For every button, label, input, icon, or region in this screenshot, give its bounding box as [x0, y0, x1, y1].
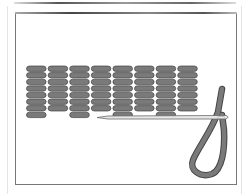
stitch	[135, 106, 155, 111]
stitch-block	[27, 66, 198, 118]
stitch	[27, 79, 47, 84]
stitch	[70, 112, 90, 117]
stitch	[70, 106, 90, 111]
stitch	[48, 99, 68, 104]
stitch	[27, 86, 47, 91]
stitch	[91, 86, 111, 91]
stitch-illustration	[0, 0, 249, 196]
stitch	[70, 73, 90, 78]
stitch	[178, 92, 198, 97]
stitch	[178, 106, 198, 111]
stitch	[70, 79, 90, 84]
stitch	[113, 79, 133, 84]
stitch	[135, 99, 155, 104]
stitch	[91, 99, 111, 104]
stitch	[178, 73, 198, 78]
stitch	[27, 73, 47, 78]
stitch	[113, 73, 133, 78]
stitch	[113, 99, 133, 104]
stitch	[48, 92, 68, 97]
stitch	[135, 92, 155, 97]
stitch	[48, 86, 68, 91]
stitch	[48, 106, 68, 111]
stitch	[156, 86, 176, 91]
stitch	[156, 106, 176, 111]
stitch	[178, 99, 198, 104]
stitch	[48, 66, 68, 71]
stitch	[178, 79, 198, 84]
stitch	[135, 66, 155, 71]
stitch	[27, 66, 47, 71]
stitch	[156, 66, 176, 71]
stitch	[135, 79, 155, 84]
stitch	[135, 86, 155, 91]
stitch	[70, 92, 90, 97]
stitch	[27, 92, 47, 97]
stitch	[113, 92, 133, 97]
stitch	[178, 86, 198, 91]
stitch	[91, 92, 111, 97]
stitch	[156, 99, 176, 104]
stitch	[27, 106, 47, 111]
stitch	[156, 73, 176, 78]
stitch	[91, 79, 111, 84]
needle	[97, 116, 228, 120]
stitch	[156, 92, 176, 97]
stitch	[113, 66, 133, 71]
stitch	[91, 106, 111, 111]
stitch	[27, 99, 47, 104]
stitch	[70, 66, 90, 71]
stitch	[27, 112, 47, 117]
stitch	[91, 73, 111, 78]
stitch	[135, 73, 155, 78]
stitch	[70, 86, 90, 91]
stitch	[48, 73, 68, 78]
stitch	[113, 86, 133, 91]
stitch	[70, 99, 90, 104]
stitch	[113, 106, 133, 111]
stitch	[178, 66, 198, 71]
stitch	[48, 79, 68, 84]
stitch	[156, 79, 176, 84]
stitch	[91, 66, 111, 71]
